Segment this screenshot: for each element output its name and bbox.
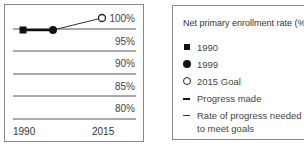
x-tick-2015: 2015 — [92, 126, 114, 137]
legend-title: Net primary enrollment rate (%) — [183, 18, 304, 28]
x-tick-1990: 1990 — [13, 126, 35, 137]
marker-2015-goal-open-circle-icon — [99, 15, 106, 22]
legend-panel: Net primary enrollment rate (%) 1990 199… — [172, 5, 304, 140]
legend-item-1999: 1999 — [183, 58, 218, 71]
marker-1999-circle-icon — [49, 26, 57, 34]
legend-item-progress-made: Progress made — [183, 92, 261, 105]
marker-1990-square-icon — [20, 27, 27, 34]
thick-line-icon — [183, 92, 197, 103]
y-tick-100: 100% — [109, 13, 135, 24]
y-tick-80: 80% — [115, 103, 135, 114]
legend-item-1990: 1990 — [183, 41, 218, 54]
thin-line-icon — [183, 109, 197, 120]
y-tick-90: 90% — [115, 58, 135, 69]
legend-item-2015-goal: 2015 Goal — [183, 75, 241, 88]
legend-item-rate-needed: Rate of progress neededto meet goals — [183, 109, 302, 135]
filled-circle-icon — [183, 58, 197, 69]
chart-plot — [5, 5, 145, 143]
y-tick-95: 95% — [115, 36, 135, 47]
open-circle-icon — [183, 75, 197, 86]
y-tick-85: 85% — [115, 81, 135, 92]
chart-panel: 100% 95% 90% 85% 80% 1990 2015 — [4, 4, 144, 142]
progress-needed-line — [53, 18, 102, 30]
filled-square-icon — [183, 41, 197, 52]
